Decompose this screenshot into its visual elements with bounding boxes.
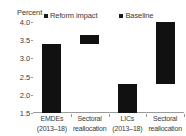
x-axis-label-line2: reallocation bbox=[146, 124, 184, 134]
y-axis-tick-label: 3.5 bbox=[20, 36, 30, 45]
y-axis-tick-label: 3.0 bbox=[20, 54, 30, 63]
y-axis-tick-mark bbox=[31, 95, 33, 96]
chart-legend: Reform impact Baseline bbox=[44, 11, 153, 20]
x-axis-category-label: Sectoralreallocation bbox=[146, 114, 184, 136]
x-axis-category-label: Sectoralreallocation bbox=[71, 114, 109, 136]
legend-item-reform-impact: Reform impact bbox=[44, 11, 97, 20]
y-axis-unit-label: Percent bbox=[17, 8, 42, 17]
y-axis-tick-mark bbox=[31, 77, 33, 78]
y-axis-tick-mark bbox=[31, 58, 33, 59]
x-axis-label-line1: Sectoral bbox=[153, 115, 177, 122]
x-axis-label-line1: LICs bbox=[121, 115, 135, 122]
plot-area: 4.03.53.02.52.01.5 bbox=[33, 22, 184, 113]
x-axis-tick-mark bbox=[71, 114, 72, 117]
y-axis-tick-label: 2.5 bbox=[20, 72, 30, 81]
x-axis-category-label: LICs(2013–18) bbox=[109, 114, 147, 136]
legend-label-baseline: Baseline bbox=[125, 11, 153, 20]
x-axis-category-label: EMDEs(2013–18) bbox=[33, 114, 71, 136]
x-axis-label-line2: reallocation bbox=[71, 124, 109, 134]
y-axis-tick-label: 2.0 bbox=[20, 90, 30, 99]
chart-bar bbox=[118, 84, 137, 113]
y-axis-tick-mark bbox=[31, 40, 33, 41]
y-axis-tick-label: 1.5 bbox=[20, 109, 30, 118]
legend-item-baseline: Baseline bbox=[119, 11, 153, 20]
chart-bar bbox=[156, 22, 175, 84]
chart-bar bbox=[42, 44, 61, 113]
legend-swatch-icon bbox=[119, 14, 123, 18]
x-axis-label-line1: Sectoral bbox=[78, 115, 102, 122]
legend-swatch-icon bbox=[44, 14, 48, 18]
x-axis-tick-mark bbox=[184, 114, 185, 117]
x-axis-category-labels: EMDEs(2013–18)SectoralreallocationLICs(2… bbox=[33, 114, 184, 136]
x-axis-tick-mark bbox=[109, 114, 110, 117]
legend-label-reform-impact: Reform impact bbox=[50, 11, 97, 20]
chart-bar bbox=[80, 35, 99, 44]
x-axis-label-line2: (2013–18) bbox=[33, 124, 71, 134]
y-axis-tick-label: 4.0 bbox=[20, 18, 30, 27]
x-axis-label-line1: EMDEs bbox=[41, 115, 64, 122]
chart-container: Percent Reform impact Baseline 4.03.53.0… bbox=[0, 0, 186, 136]
x-axis-label-line2: (2013–18) bbox=[109, 124, 147, 134]
y-axis-tick-mark bbox=[31, 22, 33, 23]
x-axis-tick-mark bbox=[146, 114, 147, 117]
